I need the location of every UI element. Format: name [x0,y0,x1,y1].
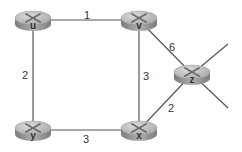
node-label-y: y [30,130,36,141]
cost-label-u-y: 2 [22,69,28,81]
node-label-u: u [30,20,36,31]
cost-label-y-x: 3 [83,133,89,145]
cost-label-v-z: 6 [169,41,175,53]
router-u: u [15,11,51,31]
node-label-x: x [136,130,142,141]
router-v: v [121,11,157,31]
cost-label-u-v: 1 [84,9,90,21]
node-label-z: z [190,74,195,85]
cost-label-v-x: 3 [143,70,149,82]
node-label-v: v [136,20,142,31]
router-x: x [121,121,157,141]
network-diagram: 1 2 3 6 2 3 u v z [0,0,242,152]
cost-label-x-z: 2 [168,102,174,114]
router-z: z [174,65,210,85]
router-y: y [15,121,51,141]
